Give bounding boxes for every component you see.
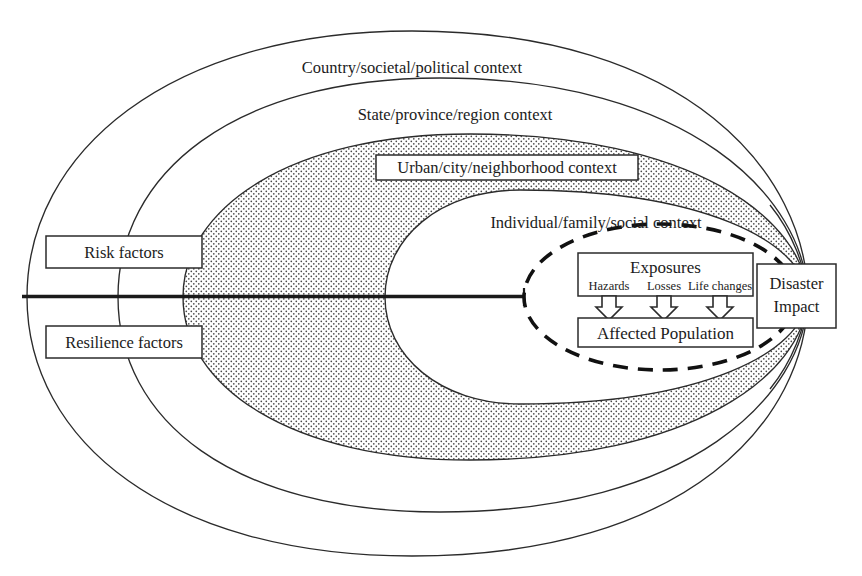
- disaster-impact-box: Disaster Impact: [757, 264, 836, 328]
- ring-label-state: State/province/region context: [358, 105, 553, 124]
- ring-label-urban-group: Urban/city/neighborhood context: [376, 155, 638, 180]
- side-box-resilience: Resilience factors: [46, 326, 202, 358]
- affected-population-box: Affected Population: [578, 318, 753, 347]
- ring-label-country: Country/societal/political context: [302, 58, 523, 77]
- exposures-title: Exposures: [630, 258, 701, 277]
- side-box-resilience-label: Resilience factors: [65, 333, 183, 352]
- exposures-item-life-changes: Life changes: [688, 279, 752, 293]
- side-box-risk-label: Risk factors: [84, 243, 163, 262]
- exposures-box: Exposures Hazards Losses Life changes: [578, 253, 753, 296]
- exposures-item-losses: Losses: [647, 279, 681, 293]
- figure-root: Country/societal/political context State…: [0, 0, 862, 576]
- exposures-item-hazards: Hazards: [589, 279, 630, 293]
- ring-label-individual: Individual/family/social context: [490, 213, 702, 232]
- disaster-impact-line2: Impact: [774, 297, 820, 316]
- ecological-model-diagram: Country/societal/political context State…: [0, 0, 862, 576]
- side-box-risk: Risk factors: [46, 236, 202, 268]
- ring-label-urban: Urban/city/neighborhood context: [397, 158, 617, 177]
- disaster-impact-line1: Disaster: [769, 274, 824, 293]
- affected-population-label: Affected Population: [597, 324, 735, 343]
